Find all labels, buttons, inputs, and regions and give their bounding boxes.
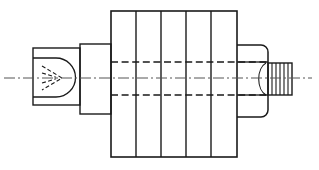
page-background bbox=[0, 0, 319, 170]
drawing-svg bbox=[0, 0, 319, 170]
threaded-shaft-group bbox=[268, 63, 292, 95]
technical-drawing-canvas bbox=[0, 0, 319, 170]
